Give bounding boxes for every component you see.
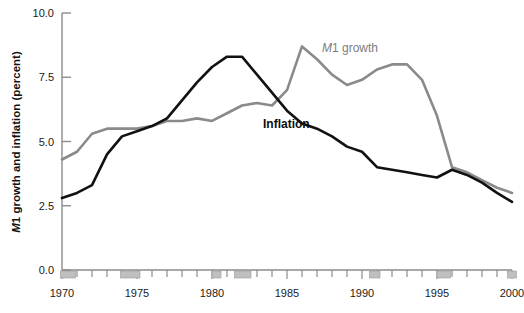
y-axis-title-italic-m: M [10,223,22,233]
x-tick-label-1995: 1995 [425,287,449,299]
m1-growth-inflation-line-chart: 0.02.55.07.510.0 19701975198019851990199… [0,0,524,313]
svg-text:M1 growth: M1 growth [322,41,378,55]
recession-band-0 [61,271,76,278]
m1-growth-label-text: 1 growth [332,41,378,55]
y-tick-label-0.0: 0.0 [39,264,54,276]
recession-band-3 [235,271,252,278]
y-axis-title-rest: 1 growth and inflation (percent) [10,51,22,223]
x-tick-label-1985: 1985 [275,287,299,299]
y-tick-label-5.0: 5.0 [39,136,54,148]
y-tick-label-2.5: 2.5 [39,200,54,212]
y-tick-label-7.5: 7.5 [39,71,54,83]
inflation-annotation: Inflation [263,117,310,131]
y-tick-label-10.0: 10.0 [33,7,54,19]
x-tick-label-1980: 1980 [200,287,224,299]
chart-background [0,0,524,313]
x-tick-label-1975: 1975 [125,287,149,299]
m1-growth-annotation: M1 growth [322,41,378,55]
x-tick-label-2000: 2000 [500,287,524,299]
recession-band-6 [508,271,517,278]
recession-band-4 [370,271,381,278]
recession-band-1 [121,271,141,278]
x-tick-label-1990: 1990 [350,287,374,299]
x-tick-label-1970: 1970 [50,287,74,299]
inflation-label-text: Inflation [263,117,310,131]
recession-band-2 [212,271,221,278]
svg-text:M1 growth and inflation (perce: M1 growth and inflation (percent) [10,51,22,233]
recession-band-5 [437,271,451,278]
y-axis-title: M1 growth and inflation (percent) [10,51,22,233]
m1-growth-label-italic-m: M [322,41,332,55]
